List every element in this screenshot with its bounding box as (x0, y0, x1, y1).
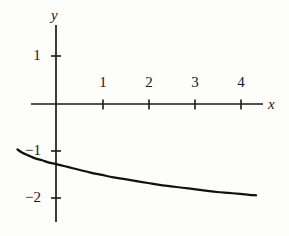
x-tick-label-1: 1 (94, 75, 112, 90)
math-graph-figure: y x 1 −1 −2 1 2 3 4 (0, 0, 289, 236)
y-tick-label-1: 1 (28, 48, 46, 63)
y-tick-label-neg1: −1 (20, 143, 46, 158)
y-axis-label: y (51, 8, 58, 23)
x-tick-label-3: 3 (186, 75, 204, 90)
data-curve (17, 149, 256, 195)
y-tick-label-neg2: −2 (20, 190, 46, 205)
x-tick-label-2: 2 (140, 75, 158, 90)
x-tick-label-4: 4 (232, 75, 250, 90)
x-axis-label: x (268, 97, 275, 112)
